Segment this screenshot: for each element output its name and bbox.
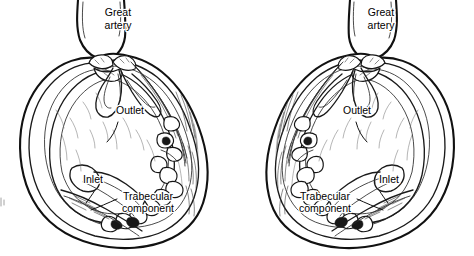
left-trabecular-label-line2: component (122, 202, 174, 214)
right-great-artery-label-line2: artery (368, 19, 396, 31)
left-edge-artifact (1, 198, 4, 206)
left-ventricle-diagram: Great artery Outlet Inlet Trabecular com… (0, 0, 237, 256)
right-mirrored-drawing (267, 0, 454, 248)
left-trabecular-label-line1: Trabecular (123, 190, 173, 202)
figure-root: Great artery Outlet Inlet Trabecular com… (0, 0, 474, 256)
left-great-artery-label-line1: Great (105, 6, 131, 18)
left-great-artery-label-line2: artery (105, 19, 133, 31)
left-leader-lines (86, 122, 118, 210)
right-trabecular-label-line2: component (299, 202, 351, 214)
left-inlet-label: Inlet (83, 173, 103, 185)
right-leader-lines (356, 122, 388, 210)
right-trabecular-label-line1: Trabecular (300, 190, 350, 202)
right-inlet-label: Inlet (379, 173, 399, 185)
left-outlet-label: Outlet (116, 104, 144, 116)
right-great-artery-label-line1: Great (368, 6, 394, 18)
right-outlet-label: Outlet (343, 104, 371, 116)
right-ventricle-diagram: Great artery Outlet Inlet Trabecular com… (237, 0, 474, 256)
